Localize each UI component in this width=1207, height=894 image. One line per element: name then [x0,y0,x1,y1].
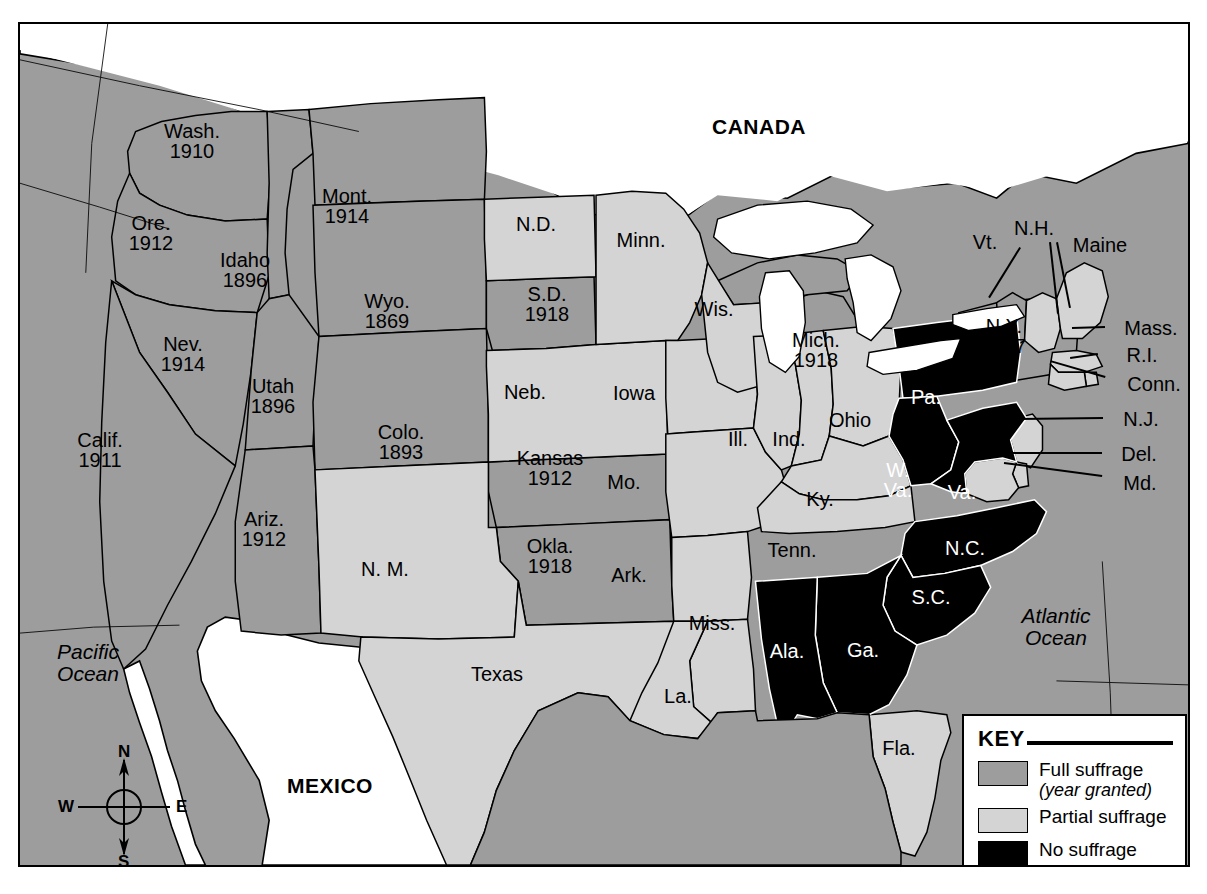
state-arizona [235,446,321,635]
compass-south-label: S [118,852,129,867]
state-ohio [823,327,901,446]
state-arkansas [672,532,752,622]
map-frame: Wash.1910Ore.1912Idaho1896Mont.1914Wyo.1… [18,22,1190,867]
legend-label-full-suffrage-sub: (year granted) [1039,781,1152,800]
legend-item-full: Full suffrage (year granted) [978,760,1173,800]
state-nebraska [486,340,667,461]
compass-rose: N S E W [58,742,190,867]
legend-label-full-suffrage-text: Full suffrage [1039,759,1143,780]
compass-east-label: E [176,797,187,817]
compass-north-label: N [118,742,130,762]
state-northdakota [484,195,596,281]
legend-swatch-no-suffrage [978,841,1028,866]
legend-label-partial-suffrage: Partial suffrage [1039,807,1166,828]
legend-item-none: No suffrage [978,840,1173,866]
leader-del [1012,452,1102,454]
state-colorado [313,329,488,470]
state-newmexico [315,462,518,639]
compass-west-label: W [58,797,74,817]
legend-item-partial: Partial suffrage [978,807,1173,833]
legend-rule [1027,741,1173,745]
legend-label-no-suffrage: No suffrage [1039,840,1137,861]
map-legend: KEY Full suffrage (year granted) Partial… [962,714,1187,867]
legend-label-full-suffrage: Full suffrage (year granted) [1039,760,1152,800]
state-montana [309,98,486,205]
state-wyoming [313,199,486,336]
legend-swatch-full-suffrage [978,761,1028,786]
legend-swatch-partial-suffrage [978,808,1028,833]
legend-title: KEY [978,726,1025,752]
state-kansas [488,454,669,528]
legend-header: KEY [978,726,1173,752]
state-southdakota [486,277,596,351]
map-page: Wash.1910Ore.1912Idaho1896Mont.1914Wyo.1… [0,0,1207,894]
